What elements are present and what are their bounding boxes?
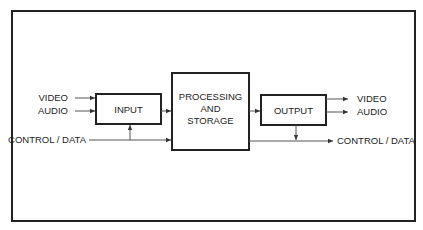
block-diagram: INPUT PROCESSING AND STORAGE OUTPUT VIDE… [0,0,423,230]
output-control-label: CONTROL / DATA [337,135,416,146]
input-audio-label: AUDIO [38,105,68,116]
input-control-label: CONTROL / DATA [8,134,87,145]
output-audio-label: AUDIO [357,106,387,117]
output-block-label: OUTPUT [274,105,313,116]
processing-label-line2: AND [200,103,220,114]
input-block-label: INPUT [114,104,143,115]
processing-label-line1: PROCESSING [179,91,242,102]
input-video-label: VIDEO [38,92,68,103]
output-video-label: VIDEO [357,93,387,104]
processing-label-line3: STORAGE [187,115,233,126]
